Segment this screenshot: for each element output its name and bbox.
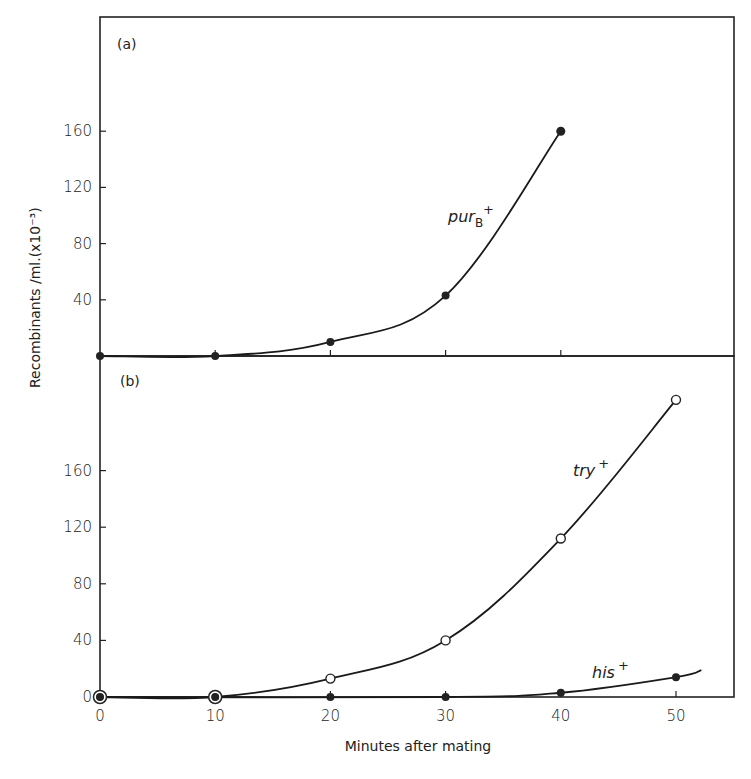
- panel-a-label: (a): [117, 36, 137, 52]
- x-tick-label: 30: [436, 707, 455, 725]
- x-tick-label: 10: [206, 707, 225, 725]
- panel-b-ytick-label: 40: [73, 631, 92, 649]
- panel-a-ytick-label: 80: [73, 235, 92, 253]
- data-point-purB-plus: [442, 292, 450, 300]
- y-axis-title: Recombinants /ml.(x10⁻³): [27, 207, 43, 388]
- panel-b-ytick-label: 120: [63, 518, 92, 536]
- data-point-his-plus: [442, 693, 450, 701]
- x-tick-label: 40: [551, 707, 570, 725]
- x-axis-title: Minutes after mating: [345, 738, 492, 754]
- data-point-try-plus: [556, 534, 565, 543]
- series-line-purB-plus: [100, 131, 561, 357]
- recombinants-chart: (a) (b) Minutes after mating Recombinant…: [0, 0, 751, 779]
- panel-b-frame: [100, 356, 734, 697]
- series-label-his-plus: his+: [592, 658, 629, 682]
- series-line-try-plus: [100, 400, 676, 699]
- panel-b-ticks: 0408012016001020304050: [63, 462, 685, 725]
- series-label-try-plus: try+: [573, 456, 609, 480]
- series-curves: [100, 131, 701, 698]
- series-markers: [94, 127, 681, 704]
- data-point-try-plus: [441, 636, 450, 645]
- data-point-his-plus: [672, 673, 680, 681]
- x-tick-label: 20: [321, 707, 340, 725]
- data-point-purB-plus: [96, 352, 104, 360]
- data-point-try-plus: [326, 674, 335, 683]
- x-tick-label: 50: [666, 707, 685, 725]
- data-point-his-plus: [326, 693, 334, 701]
- data-point-his-plus-overlay: [212, 694, 219, 701]
- panel-a-ytick-label: 120: [63, 178, 92, 196]
- panel-a-frame: [100, 17, 734, 356]
- data-point-try-plus: [672, 395, 681, 404]
- panel-b-label: (b): [120, 373, 140, 389]
- panel-a-ytick-label: 40: [73, 291, 92, 309]
- series-labels: purB+try+his+: [447, 202, 629, 682]
- panel-a-ytick-label: 160: [63, 122, 92, 140]
- data-point-purB-plus: [211, 352, 219, 360]
- data-point-his-plus: [557, 689, 565, 697]
- series-label-purB-plus: purB+: [447, 202, 494, 230]
- panel-a-ticks: 4080120160: [63, 122, 560, 356]
- panel-b-ytick-label: 0: [82, 688, 92, 706]
- panel-b-ytick-label: 160: [63, 462, 92, 480]
- data-point-purB-plus: [556, 127, 565, 136]
- panel-b-ytick-label: 80: [73, 575, 92, 593]
- x-tick-label: 0: [95, 707, 105, 725]
- data-point-purB-plus: [326, 338, 334, 346]
- data-point-his-plus-overlay: [97, 694, 104, 701]
